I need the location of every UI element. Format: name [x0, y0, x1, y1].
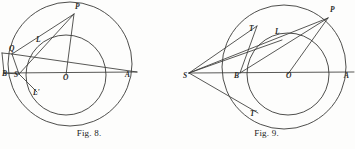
fig8-line-OP	[66, 14, 74, 75]
fig9-label-T-prime: T'	[250, 109, 257, 118]
fig8-label-L: L	[35, 35, 41, 44]
fig9-line-tangent-ST	[189, 26, 257, 73]
figure-8-caption: Fig. 8.	[0, 128, 178, 138]
fig8-label-B: B	[1, 69, 7, 78]
fig8-label-O: O	[63, 73, 69, 82]
fig9-label-L: L	[274, 27, 280, 36]
fig9-label-O: O	[286, 71, 292, 80]
fig9-label-A: A	[343, 71, 349, 80]
fig8-label-Q: Q	[9, 44, 15, 53]
fig8-outer-circle	[8, 2, 132, 126]
fig9-label-S: S	[183, 71, 187, 80]
fig8-line-diameter-BA	[4, 72, 137, 73]
fig8-label-P: P	[75, 2, 80, 11]
fig9-label-B: B	[233, 71, 239, 80]
fig9-line-S-to-L	[189, 40, 282, 73]
figure-8: P L Q B S L' O A Fig. 8.	[0, 0, 178, 149]
figure-page: P L Q B S L' O A Fig. 8. P	[0, 0, 355, 149]
fig9-outer-circle	[222, 5, 346, 129]
fig8-label-L-prime: L'	[32, 88, 40, 97]
fig9-line-SP	[189, 18, 328, 73]
fig9-label-T: T	[249, 24, 254, 33]
figure-9-drawing: P T L S B O A T'	[178, 0, 355, 128]
fig8-label-S: S	[14, 70, 18, 79]
fig8-line-QA	[12, 54, 137, 72]
figure-8-drawing: P L Q B S L' O A	[0, 0, 178, 128]
fig9-label-P: P	[330, 5, 335, 14]
figure-9: P T L S B O A T' Fig. 9.	[178, 0, 355, 149]
fig9-line-OP	[288, 18, 328, 74]
figure-9-caption: Fig. 9.	[178, 128, 355, 138]
fig8-line-Q-horizontal	[2, 53, 12, 54]
fig8-label-A: A	[124, 70, 130, 79]
